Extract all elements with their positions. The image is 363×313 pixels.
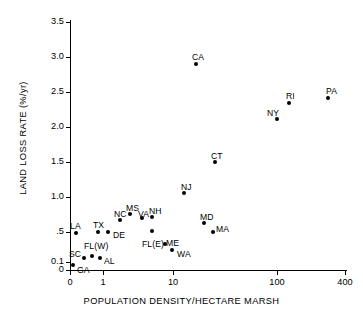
data-point-wa bbox=[170, 248, 174, 252]
y-axis-tick-label: 2.0 bbox=[36, 121, 64, 131]
data-point-ca bbox=[194, 62, 198, 66]
data-point-label: FL(W) bbox=[84, 241, 108, 251]
data-point-label: NH bbox=[149, 206, 162, 216]
x-axis-tick-label: 10 bbox=[158, 277, 188, 287]
y-axis-line bbox=[70, 20, 71, 272]
y-axis-tick-label: 0 bbox=[36, 264, 64, 274]
y-axis-tick bbox=[66, 262, 70, 263]
data-point-label: RI bbox=[286, 91, 295, 101]
data-point-al bbox=[98, 256, 102, 260]
data-point-tx bbox=[96, 230, 100, 234]
data-point-ri bbox=[287, 101, 291, 105]
data-point-label: MA bbox=[216, 224, 229, 234]
data-point-label: NJ bbox=[181, 182, 192, 192]
data-point-label: PA bbox=[326, 86, 337, 96]
x-axis-tick bbox=[277, 271, 278, 275]
y-axis-tick bbox=[66, 57, 70, 58]
data-point-label: CA bbox=[192, 52, 204, 62]
x-axis-line bbox=[69, 270, 347, 271]
y-axis-tick bbox=[66, 92, 70, 93]
data-point-label: ME bbox=[166, 238, 179, 248]
y-axis-tick-label: 3.5 bbox=[36, 16, 64, 26]
data-point-pa bbox=[326, 96, 330, 100]
data-point-label: AL bbox=[104, 256, 115, 266]
y-axis-tick-label: 3.0 bbox=[36, 51, 64, 61]
x-axis-tick bbox=[345, 271, 346, 275]
data-point-label: WA bbox=[177, 249, 191, 259]
x-axis-tick bbox=[70, 271, 71, 275]
y-axis-tick-label: 1.0 bbox=[36, 191, 64, 201]
data-point-la bbox=[74, 231, 78, 235]
y-axis-title: LAND LOSS RATE (%/yr) bbox=[18, 53, 28, 223]
x-axis-title: POPULATION DENSITY/HECTARE MARSH bbox=[0, 296, 363, 306]
x-axis-tick-label: 1 bbox=[88, 277, 118, 287]
data-point-de bbox=[106, 230, 110, 234]
y-axis-tick bbox=[66, 127, 70, 128]
scatter-chart-figure: LAND LOSS RATE (%/yr) POPULATION DENSITY… bbox=[0, 0, 363, 313]
y-axis-tick-label: 2.5 bbox=[36, 86, 64, 96]
data-point-label: VA bbox=[138, 209, 149, 219]
x-axis-tick-label: 100 bbox=[262, 277, 292, 287]
data-point-ma bbox=[211, 230, 215, 234]
y-axis-tick-label: .5 bbox=[36, 226, 64, 236]
data-point-label: CT bbox=[211, 151, 223, 161]
data-point-label: LA bbox=[70, 221, 81, 231]
data-point-label: FL(E) bbox=[142, 239, 164, 249]
data-point-label: NY bbox=[267, 108, 279, 118]
data-point-fle bbox=[150, 229, 154, 233]
x-axis-tick-label: 0 bbox=[55, 277, 85, 287]
x-axis-tick-label: 400 bbox=[330, 277, 360, 287]
data-point-label: MD bbox=[200, 212, 214, 222]
data-point-sc bbox=[82, 256, 86, 260]
data-point-label: SC bbox=[69, 249, 81, 259]
y-axis-tick bbox=[66, 22, 70, 23]
data-point-ga bbox=[71, 263, 75, 267]
x-axis-tick bbox=[173, 271, 174, 275]
data-point-label: NC bbox=[114, 209, 127, 219]
y-axis-tick-label: 1.5 bbox=[36, 156, 64, 166]
y-axis-tick bbox=[66, 197, 70, 198]
x-axis-tick bbox=[103, 271, 104, 275]
data-point-label: DE bbox=[113, 230, 125, 240]
data-point-label: TX bbox=[93, 220, 104, 230]
data-point-flw bbox=[90, 254, 94, 258]
data-point-label: GA bbox=[77, 265, 90, 275]
y-axis-tick bbox=[66, 162, 70, 163]
y-axis-tick bbox=[66, 232, 70, 233]
